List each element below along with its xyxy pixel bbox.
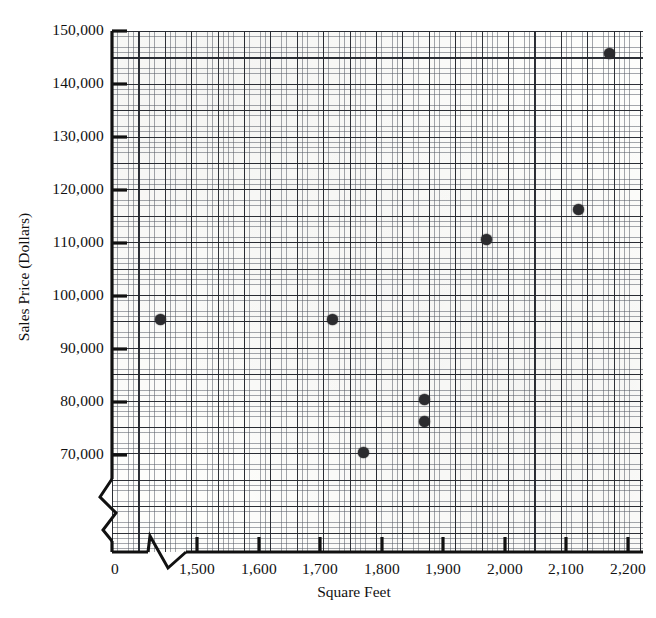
y-tick-label: 150,000 xyxy=(52,21,104,39)
x-tick-label: 2,100 xyxy=(548,560,584,578)
paper-texture xyxy=(112,31,643,552)
y-tick-label: 70,000 xyxy=(60,445,104,463)
y-axis-title: Sales Price (Dollars) xyxy=(15,157,33,397)
plot-area xyxy=(112,31,643,552)
data-point xyxy=(481,234,492,245)
y-tick-label: 80,000 xyxy=(60,392,104,410)
x-axis-title: Square Feet xyxy=(0,583,656,601)
y-tick-label: 90,000 xyxy=(60,339,104,357)
coarse-gridlines xyxy=(112,31,643,552)
x-tick-label: 1,900 xyxy=(425,560,461,578)
x-tick-label: 2,200 xyxy=(610,560,646,578)
x-tick-label: 1,500 xyxy=(179,560,215,578)
y-tick-label: 130,000 xyxy=(52,127,104,145)
x-tick-label: 1,700 xyxy=(302,560,338,578)
y-tick-label: 140,000 xyxy=(52,74,104,92)
data-point xyxy=(573,204,584,215)
x-axis-title-text: Square Feet xyxy=(317,583,391,600)
x-tick-label: 1,600 xyxy=(241,560,277,578)
data-point xyxy=(155,314,166,325)
y-tick-label: 120,000 xyxy=(52,180,104,198)
data-point xyxy=(327,314,338,325)
scatter-plot-figure: 150,000140,000130,000120,000110,000100,0… xyxy=(0,0,656,618)
data-point xyxy=(419,394,430,405)
y-tick-label: 110,000 xyxy=(53,233,104,251)
x-axis-tick-labels: 01,5001,6001,7001,8001,9002,0002,1002,20… xyxy=(0,560,656,584)
data-point xyxy=(419,416,430,427)
y-tick-label: 100,000 xyxy=(52,286,104,304)
data-point xyxy=(358,447,369,458)
x-tick-label: 1,800 xyxy=(364,560,400,578)
x-tick-label: 2,000 xyxy=(487,560,523,578)
fine-gridlines xyxy=(112,31,643,552)
data-point xyxy=(604,48,615,59)
x-tick-label: 0 xyxy=(111,560,119,578)
